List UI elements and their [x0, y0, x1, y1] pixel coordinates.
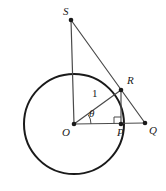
point-dot-o: [72, 122, 77, 127]
point-dot-r: [119, 88, 124, 93]
point-label-p: P: [117, 127, 124, 138]
point-dot-s: [69, 18, 74, 23]
point-label-s: S: [63, 6, 69, 17]
segment-o-q: [74, 123, 145, 124]
point-dot-q: [143, 121, 148, 126]
point-label-r: R: [127, 75, 134, 86]
point-label-o: O: [62, 127, 70, 138]
point-label-q: Q: [149, 125, 157, 136]
geometry-diagram: SROPQ1θ: [0, 0, 166, 191]
segment-s-o: [71, 20, 74, 124]
radius-one-label: 1: [92, 88, 98, 99]
geometry-canvas: [0, 0, 166, 191]
segment-s-q: [71, 20, 145, 123]
angle-theta-label: θ: [89, 108, 94, 119]
